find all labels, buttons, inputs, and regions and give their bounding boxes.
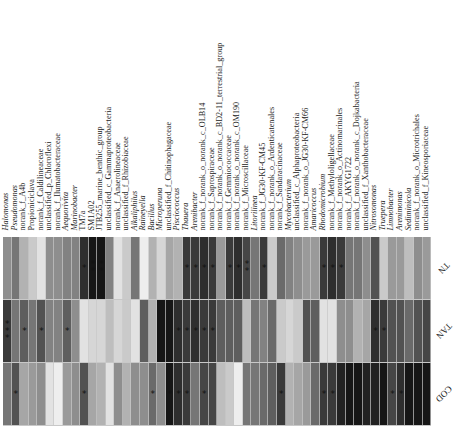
heatmap-cell <box>54 300 63 362</box>
heatmap-cell <box>414 300 423 362</box>
heatmap-cell: * <box>183 363 192 425</box>
heatmap-cell: * <box>209 300 218 362</box>
significance-marker: * <box>371 328 380 335</box>
heatmap-cell: * <box>200 363 209 425</box>
heatmap-cell <box>363 237 372 299</box>
heatmap-cell <box>414 363 423 425</box>
significance-marker: * * * <box>3 321 12 342</box>
heatmap-cell <box>20 237 29 299</box>
heatmap-cell: * <box>37 300 46 362</box>
heatmap-cell <box>72 300 81 362</box>
significance-marker: * <box>397 391 406 398</box>
heatmap-cell: * * <box>243 237 252 299</box>
heatmap-cell: * <box>277 363 286 425</box>
heatmap-cell <box>423 363 432 425</box>
significance-marker: * <box>388 391 397 398</box>
heatmap-cell <box>260 363 269 425</box>
heatmap-cell <box>140 237 149 299</box>
heatmap-cell: * <box>183 237 192 299</box>
heatmap-cell: * <box>63 300 72 362</box>
heatmap-cell: * <box>209 237 218 299</box>
significance-marker: * <box>12 391 21 398</box>
significance-marker: * <box>183 391 192 398</box>
heatmap-cell <box>37 363 46 425</box>
significance-marker: * <box>20 328 29 335</box>
significance-marker: * <box>337 265 346 272</box>
significance-marker: * <box>328 391 337 398</box>
heatmap-cell <box>294 300 303 362</box>
significance-marker: * <box>183 265 192 272</box>
heatmap-cell: * <box>320 363 329 425</box>
heatmap-cell <box>363 363 372 425</box>
heatmap-cell <box>260 300 269 362</box>
heatmap-cell: * * * <box>3 300 12 362</box>
heatmap-cell <box>140 363 149 425</box>
heatmap-cell <box>234 363 243 425</box>
heatmap-cell: * * <box>89 237 98 299</box>
column-label: Pisciococcus <box>174 0 183 232</box>
heatmap-cell <box>371 237 380 299</box>
heatmap-cell: * <box>397 363 406 425</box>
heatmap-row-tan: * * *********** <box>3 300 431 362</box>
heatmap-cell <box>46 237 55 299</box>
heatmap-cell <box>380 237 389 299</box>
heatmap-cell <box>89 363 98 425</box>
heatmap-cell: * <box>191 237 200 299</box>
heatmap-cell: * * <box>97 237 106 299</box>
heatmap-cell: * <box>328 237 337 299</box>
heatmap-cell <box>405 237 414 299</box>
significance-marker: * <box>174 391 183 398</box>
heatmap-cell: * <box>166 363 175 425</box>
significance-marker: * * <box>243 261 252 275</box>
heatmap-cell <box>320 300 329 362</box>
heatmap-cell <box>97 363 106 425</box>
significance-marker: * <box>226 265 235 272</box>
significance-marker: * <box>200 391 209 398</box>
significance-marker: * <box>80 391 89 398</box>
heatmap-cell <box>97 300 106 362</box>
heatmap-cell <box>46 300 55 362</box>
heatmap-cell <box>209 363 218 425</box>
heatmap-cell <box>303 363 312 425</box>
heatmap-cell <box>243 363 252 425</box>
column-label: Marinobacter <box>71 0 80 232</box>
heatmap-cell <box>89 300 98 362</box>
heatmap-cell <box>303 300 312 362</box>
heatmap-cell <box>268 300 277 362</box>
heatmap-cell <box>149 300 158 362</box>
heatmap-cell: * <box>174 300 183 362</box>
heatmap-cell <box>397 300 406 362</box>
significance-marker: * <box>191 265 200 272</box>
heatmap-row-cod: ************ <box>3 363 431 425</box>
heatmap-cell <box>12 237 21 299</box>
heatmap-cell <box>286 363 295 425</box>
heatmap-cell <box>123 363 132 425</box>
heatmap-cell <box>405 363 414 425</box>
significance-marker: * <box>320 265 329 272</box>
heatmap-cell <box>286 237 295 299</box>
heatmap-cell: * <box>80 237 89 299</box>
heatmap-cell <box>20 363 29 425</box>
heatmap-cell <box>346 363 355 425</box>
significance-marker: * <box>234 265 243 272</box>
heatmap-cell <box>346 300 355 362</box>
significance-marker: * <box>209 265 218 272</box>
heatmap-cell <box>54 363 63 425</box>
heatmap-cell <box>423 300 432 362</box>
heatmap-cell <box>405 300 414 362</box>
heatmap-cell <box>3 363 12 425</box>
heatmap-cell <box>123 237 132 299</box>
heatmap-cell <box>191 363 200 425</box>
heatmap-cell <box>46 363 55 425</box>
heatmap-cell <box>54 237 63 299</box>
heatmap-cell <box>226 300 235 362</box>
heatmap-cell: * <box>260 237 269 299</box>
heatmap-cell: * <box>320 237 329 299</box>
heatmap-cell <box>72 363 81 425</box>
heatmap-cell <box>328 300 337 362</box>
heatmap-cell: * <box>380 300 389 362</box>
heatmap-cell: * <box>200 300 209 362</box>
heatmap-cell <box>166 300 175 362</box>
heatmap-cell: * <box>191 300 200 362</box>
heatmap-cell <box>106 363 115 425</box>
